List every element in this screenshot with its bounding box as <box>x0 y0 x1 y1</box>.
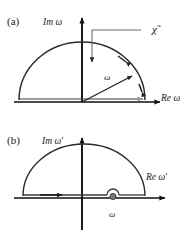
panel-a-imaginary-axis-label: Im ω <box>42 17 62 27</box>
panel-a: (a) ω χ̃ Im ω Re ω <box>0 0 191 122</box>
panel-a-canvas: (a) ω χ̃ Im ω Re ω <box>0 0 191 122</box>
panel-b-canvas: (b) ω Im ω′ Re ω′ <box>0 122 191 244</box>
panel-a-real-axis-label: Re ω <box>160 93 180 103</box>
panel-a-radius-label: ω <box>104 72 110 82</box>
panel-b-real-axis-label: Re ω′ <box>145 172 168 182</box>
panel-b-pole-label: ω <box>109 209 115 219</box>
panel-a-annotation-leader <box>92 30 141 62</box>
panel-b-pole-marker <box>110 193 116 199</box>
panel-a-annotation-label: χ̃ <box>151 23 162 35</box>
panel-b: (b) ω Im ω′ Re ω′ <box>0 122 191 244</box>
panel-a-arc-arrowhead-lower <box>139 84 142 92</box>
figure-root: (a) ω χ̃ Im ω Re ω <box>0 0 191 244</box>
panel-b-contour-arc <box>23 144 145 196</box>
panel-b-imaginary-axis-label: Im ω′ <box>41 136 64 146</box>
panel-b-tag: (b) <box>7 134 20 147</box>
panel-a-tag: (a) <box>7 15 20 28</box>
